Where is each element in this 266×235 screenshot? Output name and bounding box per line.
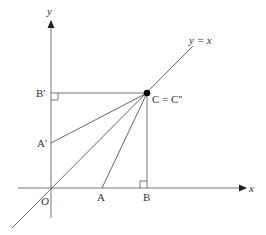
segment-aprime-c	[51, 93, 147, 143]
y-axis-label: y	[46, 5, 52, 17]
line-y-equals-x-label: y = x	[188, 34, 212, 46]
right-angle-marker-b	[140, 181, 147, 188]
label-a: A	[97, 191, 105, 203]
right-angle-marker-bprime	[51, 93, 58, 100]
segment-a-c	[102, 93, 147, 188]
x-axis-label: x	[248, 182, 254, 194]
diagram-canvas: y x O y = x B' A' A B C = C''	[0, 0, 266, 235]
label-b: B	[143, 191, 150, 203]
label-c: C = C''	[152, 93, 182, 105]
point-c	[144, 90, 151, 97]
origin-label: O	[41, 195, 49, 207]
label-a-prime: A'	[37, 137, 47, 149]
label-b-prime: B'	[36, 87, 45, 99]
